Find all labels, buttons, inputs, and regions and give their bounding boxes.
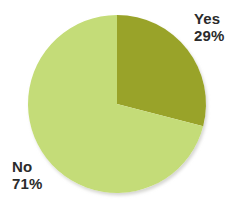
- slice-label-yes-name: Yes: [194, 11, 224, 28]
- slice-label-no-name: No: [12, 159, 42, 176]
- slice-label-yes: Yes 29%: [194, 11, 224, 45]
- pie-slices-group: [28, 15, 206, 193]
- slice-label-no: No 71%: [12, 159, 42, 193]
- slice-label-yes-value: 29%: [194, 28, 224, 45]
- pie-chart: Yes 29% No 71%: [0, 0, 243, 208]
- slice-label-no-value: 71%: [12, 176, 42, 193]
